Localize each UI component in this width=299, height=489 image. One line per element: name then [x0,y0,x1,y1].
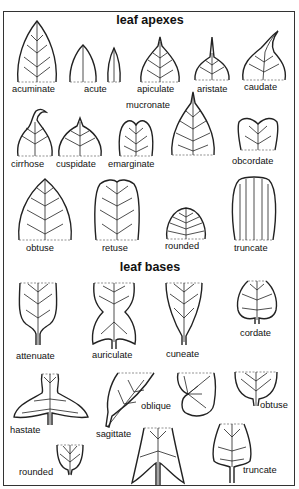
leaf-acuminate-icon [14,19,64,84]
label-attenuate: attenuate [16,351,55,361]
label-rounded-base: rounded [19,467,53,477]
label-hastate: hastate [10,425,41,435]
leaf-rounded-icon [165,207,207,241]
label-retuse: retuse [102,243,128,253]
label-acuminate: acuminate [12,84,55,94]
leaf-oblique-icon [104,372,156,428]
leaf-apiculate-icon [139,36,181,84]
label-obtuse: obtuse [26,243,54,253]
label-emarginate: emarginate [108,159,155,169]
leaf-auriculate-icon [91,282,137,350]
label-apiculate: apiculate [137,84,174,94]
label-caudate: caudate [244,82,277,92]
leaf-truncate-base-icon [212,423,252,485]
leaf-aristate-icon [194,37,230,83]
section-title-bases: leaf bases [100,260,200,274]
label-acute: acute [84,84,107,94]
label-auriculate: auriculate [92,350,132,360]
label-oblique: oblique [141,401,171,411]
leaf-cordate-icon [236,280,278,324]
leaf-cuspidate-icon [57,118,103,158]
label-obtuse-base: obtuse [260,400,288,410]
leaf-obtuse-icon [17,178,73,242]
label-truncate-apex: truncate [234,243,268,253]
label-mucronate: mucronate [126,100,170,110]
leaf-caudate-icon [241,30,287,82]
leaf-attenuate-icon [18,282,58,346]
leaf-rounded-base-icon [55,444,85,476]
label-sagittate: sagittate [96,429,131,439]
label-cordate: cordate [240,328,271,338]
leaf-sagittate-icon [130,427,186,487]
leaf-acute-icon [68,44,98,84]
label-rounded: rounded [165,241,199,251]
leaf-emarginate-icon [118,118,154,158]
leaf-mucronate-icon [170,91,216,157]
leaf-obcordate-icon [237,116,279,152]
label-cuspidate: cuspidate [56,159,96,169]
leaf-cirrhose-icon [16,108,56,158]
section-title-apexes: leaf apexes [100,13,200,27]
leaf-cuneate-icon [164,282,204,346]
leaf-retuse-icon [94,178,140,242]
label-obcordate: obcordate [232,156,273,166]
label-cuneate: cuneate [166,349,199,359]
leaf-hastate-icon [12,373,92,425]
leaf-truncate-apex-icon [231,176,277,242]
label-truncate-base: truncate [243,465,277,475]
leaf-acute-narrow-icon [107,48,121,84]
leaf-oblique-right-icon [174,372,218,418]
label-cirrhose: cirrhose [11,159,44,169]
